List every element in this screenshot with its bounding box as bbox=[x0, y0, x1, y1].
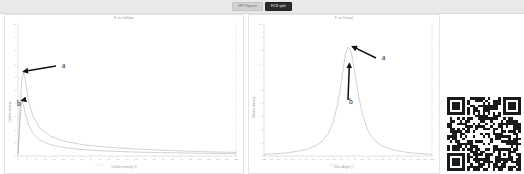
svg-text:8: 8 bbox=[260, 49, 262, 52]
svg-text:-100: -100 bbox=[275, 158, 281, 161]
svg-text:1: 1 bbox=[260, 142, 262, 145]
svg-text:60: 60 bbox=[126, 158, 129, 161]
svg-text:100: 100 bbox=[198, 158, 203, 161]
svg-text:10: 10 bbox=[13, 23, 16, 26]
svg-text:-90: -90 bbox=[283, 158, 287, 161]
svg-text:20: 20 bbox=[53, 158, 56, 161]
annotation-letter-b-right: b bbox=[349, 98, 353, 106]
caption-left: Fig. 1a bbox=[96, 164, 104, 167]
svg-text:35: 35 bbox=[80, 158, 83, 161]
svg-text:-80: -80 bbox=[290, 158, 294, 161]
svg-text:4: 4 bbox=[260, 102, 262, 105]
svg-text:5: 5 bbox=[14, 89, 16, 92]
svg-text:-20: -20 bbox=[332, 158, 336, 161]
plot-canvas-left: 0510152025303540455055606570758085909510… bbox=[4, 14, 244, 174]
svg-text:5: 5 bbox=[260, 89, 262, 92]
header-button-fcs-split[interactable]: FCS split bbox=[265, 2, 292, 11]
svg-text:2: 2 bbox=[14, 129, 16, 132]
svg-text:90: 90 bbox=[410, 158, 413, 161]
y-axis-label-right: Relative Intensity bbox=[252, 97, 256, 118]
svg-text:110: 110 bbox=[423, 158, 428, 161]
svg-text:9: 9 bbox=[260, 36, 262, 39]
svg-text:120: 120 bbox=[234, 158, 239, 161]
svg-text:1: 1 bbox=[14, 142, 16, 145]
chart-panel-left: X vs Cellular 05101520253035404550556065… bbox=[4, 14, 244, 174]
svg-text:15: 15 bbox=[44, 158, 47, 161]
svg-text:0: 0 bbox=[14, 155, 16, 158]
svg-text:110: 110 bbox=[216, 158, 221, 161]
svg-text:40: 40 bbox=[89, 158, 92, 161]
svg-text:30: 30 bbox=[71, 158, 74, 161]
svg-text:40: 40 bbox=[375, 158, 378, 161]
svg-text:50: 50 bbox=[107, 158, 110, 161]
x-axis-label-right: Dose Angle (°) bbox=[248, 165, 440, 169]
svg-text:3: 3 bbox=[14, 115, 16, 118]
svg-text:8: 8 bbox=[14, 49, 16, 52]
svg-text:120: 120 bbox=[430, 158, 435, 161]
svg-text:-30: -30 bbox=[325, 158, 329, 161]
header-button-mfi-square[interactable]: MFI Square bbox=[232, 2, 263, 11]
annotation-letter-b-left: b bbox=[17, 100, 21, 108]
svg-text:0: 0 bbox=[17, 158, 19, 161]
svg-text:2: 2 bbox=[260, 129, 262, 132]
svg-text:10: 10 bbox=[35, 158, 38, 161]
svg-text:25: 25 bbox=[62, 158, 65, 161]
charts-area: X vs Cellular 05101520253035404550556065… bbox=[0, 14, 524, 174]
svg-text:105: 105 bbox=[207, 158, 212, 161]
svg-text:6: 6 bbox=[260, 76, 262, 79]
svg-text:-60: -60 bbox=[304, 158, 308, 161]
header-bar: MFI Square FCS split bbox=[0, 0, 524, 14]
svg-text:7: 7 bbox=[260, 63, 262, 66]
caption-right: Fig. 1b bbox=[330, 164, 338, 167]
svg-text:5: 5 bbox=[26, 158, 28, 161]
svg-text:-110: -110 bbox=[269, 158, 274, 161]
chart-panel-right: X vs Critical -120-110-100-90-80-70-60-5… bbox=[248, 14, 440, 174]
svg-text:3: 3 bbox=[260, 115, 262, 118]
svg-text:-70: -70 bbox=[297, 158, 301, 161]
svg-text:75: 75 bbox=[153, 158, 156, 161]
annotation-letter-a-left: a bbox=[62, 62, 65, 70]
svg-text:95: 95 bbox=[189, 158, 192, 161]
svg-text:50: 50 bbox=[382, 158, 385, 161]
y-axis-label-left: Cellular intensity bbox=[8, 101, 12, 122]
svg-text:55: 55 bbox=[117, 158, 120, 161]
svg-text:80: 80 bbox=[403, 158, 406, 161]
svg-text:60: 60 bbox=[389, 158, 392, 161]
svg-text:10: 10 bbox=[259, 23, 262, 26]
x-axis-label-left: Cellular intensity % bbox=[4, 165, 244, 169]
svg-text:6: 6 bbox=[14, 76, 16, 79]
svg-text:85: 85 bbox=[171, 158, 174, 161]
plot-canvas-right: -120-110-100-90-80-70-60-50-40-30-20-100… bbox=[248, 14, 440, 174]
svg-text:80: 80 bbox=[162, 158, 165, 161]
svg-text:-10: -10 bbox=[339, 158, 343, 161]
svg-text:70: 70 bbox=[144, 158, 147, 161]
svg-text:90: 90 bbox=[180, 158, 183, 161]
svg-text:10: 10 bbox=[354, 158, 357, 161]
svg-text:7: 7 bbox=[14, 63, 16, 66]
svg-text:65: 65 bbox=[135, 158, 138, 161]
annotation-letter-a-right: a bbox=[382, 54, 385, 62]
qr-code bbox=[447, 97, 521, 171]
svg-text:-50: -50 bbox=[311, 158, 315, 161]
screenshot-root: MFI Square FCS split X vs Cellular 05101… bbox=[0, 0, 524, 174]
svg-text:-40: -40 bbox=[318, 158, 322, 161]
svg-text:115: 115 bbox=[225, 158, 230, 161]
qr-code-container bbox=[447, 97, 521, 171]
svg-text:100: 100 bbox=[416, 158, 421, 161]
svg-text:-120: -120 bbox=[261, 158, 267, 161]
svg-text:9: 9 bbox=[14, 36, 16, 39]
svg-text:45: 45 bbox=[98, 158, 101, 161]
svg-text:70: 70 bbox=[396, 158, 399, 161]
svg-text:0: 0 bbox=[347, 158, 349, 161]
svg-text:30: 30 bbox=[368, 158, 371, 161]
svg-text:20: 20 bbox=[361, 158, 364, 161]
